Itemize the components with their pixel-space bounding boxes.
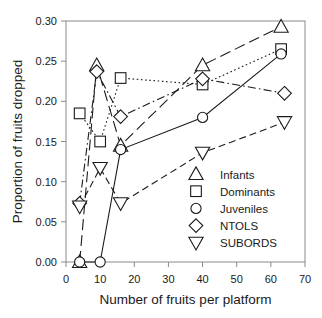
legend-label: SUBORDS <box>220 237 277 249</box>
x-axis-tick-label: 30 <box>162 273 174 285</box>
data-point-infants <box>195 58 209 71</box>
legend-label: Juveniles <box>220 203 268 215</box>
series-line-dominants <box>80 49 281 141</box>
data-point-juveniles <box>276 49 286 59</box>
legend-marker-triangle-down-icon <box>189 237 203 250</box>
x-axis-tick-label: 20 <box>128 273 140 285</box>
data-point-juveniles <box>95 257 105 267</box>
legend-label: NTOLS <box>220 220 258 232</box>
x-axis-tick-label: 10 <box>94 273 106 285</box>
x-axis-tick-label: 40 <box>196 273 208 285</box>
chart-figure: 0.000.050.100.150.200.250.30010203040506… <box>0 0 322 318</box>
y-axis-tick-label: 0.25 <box>36 55 57 67</box>
y-axis-label: Proportion of fruits dropped <box>10 60 25 224</box>
x-axis-label: Number of fruits per platform <box>100 292 272 307</box>
data-point-subords <box>277 117 291 130</box>
x-axis-tick-label: 60 <box>265 273 277 285</box>
y-axis-tick-label: 0.20 <box>36 95 57 107</box>
y-axis-tick-label: 0.00 <box>36 256 57 268</box>
y-axis-tick-label: 0.30 <box>36 15 57 27</box>
legend-marker-diamond-icon <box>189 219 203 233</box>
legend-label: Dominants <box>220 186 275 198</box>
x-axis-tick-label: 50 <box>231 273 243 285</box>
data-point-subords <box>195 147 209 160</box>
data-point-juveniles <box>116 144 126 154</box>
data-point-subords <box>93 162 107 175</box>
chart-svg: 0.000.050.100.150.200.250.30010203040506… <box>0 0 322 318</box>
legend-label: Infants <box>220 169 255 181</box>
data-point-juveniles <box>75 257 85 267</box>
y-axis-tick-label: 0.10 <box>36 176 57 188</box>
x-axis-tick-label: 70 <box>299 273 311 285</box>
data-point-dominants <box>74 108 85 119</box>
legend-marker-triangle-up-icon <box>189 167 203 180</box>
y-axis-tick-label: 0.15 <box>36 136 57 148</box>
legend-marker-circle-icon <box>191 203 201 213</box>
data-point-ntols <box>114 110 128 124</box>
data-point-ntols <box>278 86 292 100</box>
data-point-juveniles <box>197 112 207 122</box>
y-axis-tick-label: 0.05 <box>36 216 57 228</box>
legend-marker-square-icon <box>191 186 202 197</box>
x-axis-tick-label: 0 <box>63 273 69 285</box>
data-point-dominants <box>95 136 106 147</box>
data-point-dominants <box>115 73 126 84</box>
data-point-subords <box>113 198 127 211</box>
series-line-ntols <box>80 72 285 204</box>
